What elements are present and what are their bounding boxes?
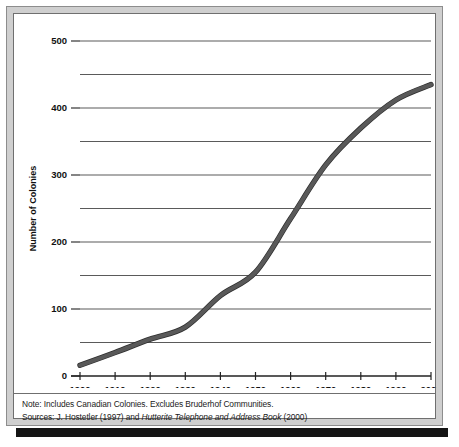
- x-axis-label-1900: 1900: [69, 384, 90, 388]
- x-axis-label-2000: 2000: [420, 384, 437, 388]
- footnote-sources: Sources: J. Hostetler (1997) and Hutteri…: [22, 411, 427, 424]
- y-axis-label-0: 0: [62, 370, 67, 381]
- line-chart-svg: 0100200300400500 19001910192019301940195…: [14, 14, 437, 388]
- figure-shadow-bar: [16, 428, 448, 437]
- chart-figure-frame: 0100200300400500 19001910192019301940195…: [6, 6, 443, 426]
- y-axis-label-500: 500: [51, 35, 67, 46]
- chart-series-line: [80, 85, 431, 366]
- x-axis-label-1970: 1970: [315, 384, 336, 388]
- chart-y-axis-title: Number of Colonies: [28, 166, 38, 252]
- y-axis-label-100: 100: [51, 303, 67, 314]
- x-axis-label-1920: 1920: [140, 384, 161, 388]
- footnote-sources-prefix: Sources: J. Hostetler (1997) and: [22, 412, 142, 422]
- x-axis-label-1950: 1950: [245, 384, 266, 388]
- x-axis-label-1960: 1960: [280, 384, 301, 388]
- chart-x-axis-tick-labels: 1900191019201930194019501960197019801990…: [69, 384, 437, 388]
- x-axis-label-1910: 1910: [105, 384, 126, 388]
- series-line-number-of-colonies: [80, 85, 431, 366]
- chart-footnotes: Note: Includes Canadian Colonies. Exclud…: [22, 398, 427, 423]
- notes-separator: [14, 393, 435, 394]
- y-axis-title-text: Number of Colonies: [28, 166, 38, 252]
- footnote-sources-title: Hutterite Telephone and Address Book: [142, 412, 282, 422]
- y-axis-label-200: 200: [51, 236, 67, 247]
- y-axis-label-400: 400: [51, 102, 67, 113]
- series-line-outline: [80, 85, 431, 366]
- chart-y-axis-tick-labels: 0100200300400500: [51, 35, 67, 381]
- x-axis-label-1990: 1990: [385, 384, 406, 388]
- x-axis-label-1930: 1930: [175, 384, 196, 388]
- chart-figure-inner: 0100200300400500 19001910192019301940195…: [13, 13, 436, 419]
- chart-gridlines: [80, 41, 431, 343]
- chart-y-tick-marks: [71, 41, 80, 376]
- y-axis-label-300: 300: [51, 169, 67, 180]
- chart-plot-area: 0100200300400500 19001910192019301940195…: [14, 14, 435, 388]
- x-axis-label-1980: 1980: [350, 384, 371, 388]
- footnote-sources-suffix: (2000): [281, 412, 307, 422]
- x-axis-label-1940: 1940: [210, 384, 231, 388]
- footnote-note: Note: Includes Canadian Colonies. Exclud…: [22, 398, 427, 411]
